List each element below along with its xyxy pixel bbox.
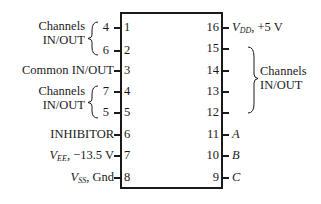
pin-number-9: 9	[213, 170, 219, 184]
pin-13-lead	[222, 91, 229, 93]
pin-9-lead	[222, 177, 229, 179]
left-top-group-label-line1: Channels	[38, 19, 85, 33]
pin-3-label: Common IN/OUT	[22, 63, 114, 77]
pin-number-6: 6	[124, 127, 130, 141]
pin-11-lead	[222, 134, 229, 136]
pin-number-12: 12	[207, 105, 220, 119]
pin-8-label: VSS, Gnd	[71, 170, 114, 188]
pin-6-lead	[114, 134, 121, 136]
pin-16-lead	[222, 27, 229, 29]
right-group-label-line2: IN/OUT	[260, 78, 302, 92]
pin-6-label: INHIBITOR	[50, 127, 114, 141]
pin-4-channel-label: 7	[103, 84, 109, 98]
left-mid-group-label-line1: Channels	[38, 84, 85, 98]
pin-4-lead	[114, 91, 121, 93]
pin-number-1: 1	[124, 20, 130, 34]
pin-number-14: 14	[207, 63, 220, 77]
pin-15-lead	[222, 48, 229, 50]
pin-10-label: B	[232, 148, 240, 162]
pin-12-lead	[222, 112, 229, 114]
pin-11-label: A	[232, 127, 240, 141]
pin-5-lead	[114, 112, 121, 114]
left-mid-group-label-line2: IN/OUT	[43, 98, 85, 112]
pin-number-16: 16	[207, 20, 220, 34]
pin-9-label: C	[232, 170, 240, 184]
right-group-label-line1: Channels	[260, 64, 307, 78]
pin-number-8: 8	[124, 170, 130, 184]
pin-7-label: VEE, −13.5 V	[49, 148, 114, 166]
left-top-group-label-line2: IN/OUT	[43, 33, 85, 47]
pin-5-channel-label: 5	[103, 105, 109, 119]
pin-1-lead	[114, 27, 121, 29]
pin-number-5: 5	[124, 105, 130, 119]
pin-number-13: 13	[207, 84, 220, 98]
pin-1-channel-label: 4	[103, 20, 109, 34]
pin-16-label: VDD, +5 V	[232, 20, 283, 38]
pin-number-2: 2	[124, 43, 130, 57]
pin-10-lead	[222, 155, 229, 157]
pin-number-11: 11	[207, 127, 219, 141]
pin-number-3: 3	[124, 63, 130, 77]
pin-number-10: 10	[207, 148, 220, 162]
pin-2-lead	[114, 50, 121, 52]
pin-2-channel-label: 6	[103, 43, 109, 57]
pin-14-lead	[222, 70, 229, 72]
pin-number-15: 15	[207, 41, 220, 55]
pin-number-7: 7	[124, 148, 130, 162]
pin-3-lead	[114, 70, 121, 72]
pin-number-4: 4	[124, 84, 130, 98]
pin-7-lead	[114, 155, 121, 157]
pin-8-lead	[114, 177, 121, 179]
